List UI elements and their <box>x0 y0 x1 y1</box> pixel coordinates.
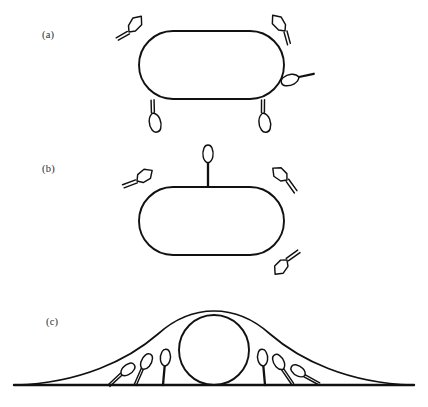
appendage-b-upper-right <box>269 164 301 194</box>
appendage-head-shape <box>268 12 289 35</box>
panel-c: (c) <box>14 311 414 389</box>
cell-outline-a <box>139 31 284 99</box>
appendage-a-top-left <box>116 12 146 45</box>
figure-canvas: (a) <box>0 0 428 407</box>
appendage-stalk-line-2 <box>259 100 263 113</box>
appendage-stalk-line-1 <box>152 100 157 113</box>
appendage-a-bottom-right <box>255 99 272 133</box>
appendage-head-shape <box>257 112 272 133</box>
appendage-b-upper-left <box>122 166 155 194</box>
appendage-head-shape <box>203 145 213 163</box>
panel-b-label: (b) <box>42 163 55 175</box>
panel-b: (b) <box>42 145 302 278</box>
appendage-a-right-mid <box>280 67 315 87</box>
appendage-head-shape <box>271 256 291 277</box>
cell-outline-c-circle <box>179 315 249 385</box>
appendage-b-lower-right <box>271 245 301 277</box>
appendage-stalk-line-2 <box>149 100 154 113</box>
panel-a-label: (a) <box>42 29 55 41</box>
appendage-head-shape <box>269 164 290 184</box>
panel-a-cell-body <box>139 31 284 99</box>
cell-outline-b <box>139 187 284 255</box>
appendage-b-top-center <box>203 145 213 187</box>
panel-a: (a) <box>42 12 315 133</box>
figure-root: (a) <box>0 0 428 407</box>
appendage-stalk-line-1 <box>299 72 314 78</box>
panel-c-label: (c) <box>46 316 59 328</box>
appendage-head-shape <box>147 112 162 133</box>
appendage-stalk-line-1 <box>262 100 266 113</box>
panel-b-cell-body <box>139 187 284 255</box>
appendage-a-bottom-left <box>145 99 163 133</box>
